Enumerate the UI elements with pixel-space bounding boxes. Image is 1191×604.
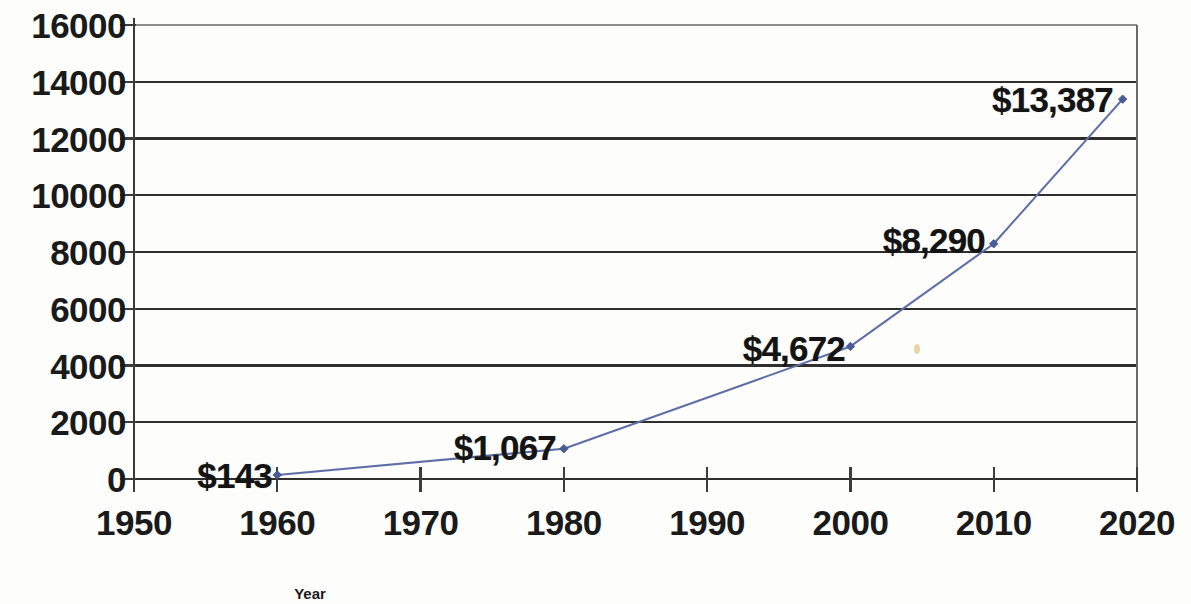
data-point-value-label: $13,387 <box>992 82 1113 117</box>
data-point-value-labels: $143$1,067$4,672$8,290$13,387 <box>0 0 1191 604</box>
data-point-value-label: $4,672 <box>743 331 845 366</box>
data-point-value-label: $1,067 <box>454 430 556 465</box>
line-chart: 1600014000120001000080006000400020000 19… <box>0 0 1191 604</box>
data-point-value-label: $143 <box>197 458 272 493</box>
x-axis-title: Year <box>230 586 390 601</box>
data-point-value-label: $8,290 <box>883 223 985 258</box>
